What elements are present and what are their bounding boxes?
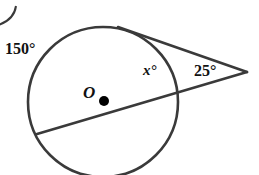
arc-label-150: 150° xyxy=(5,40,35,57)
secant-line xyxy=(37,72,247,134)
geometry-diagram: 150° O x° 25° xyxy=(0,0,259,175)
tangent-line xyxy=(118,27,247,72)
arc-marker-fragment xyxy=(0,6,16,25)
center-point xyxy=(99,96,109,106)
angle-25-label: 25° xyxy=(194,62,216,79)
angle-x-label: x° xyxy=(142,62,157,78)
center-label: O xyxy=(83,83,95,102)
